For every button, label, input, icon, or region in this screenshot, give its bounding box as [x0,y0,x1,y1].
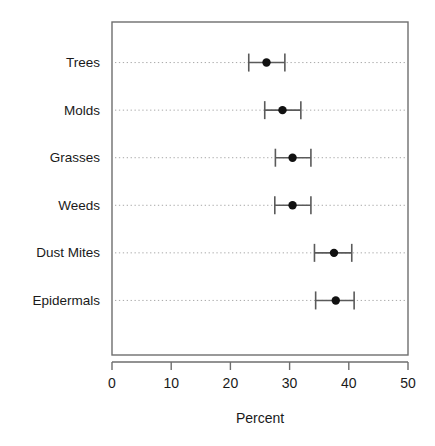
x-tick-label: 20 [223,375,239,391]
data-point-marker [278,106,286,114]
data-point-marker [330,249,338,257]
category-label: Trees [66,55,100,70]
x-tick-label: 40 [341,375,357,391]
category-label: Grasses [50,150,101,165]
data-point-marker [262,58,270,66]
data-point-marker [332,296,340,304]
data-point-marker [288,201,296,209]
x-tick-label: 10 [163,375,179,391]
category-label: Weeds [58,198,100,213]
x-axis-title: Percent [236,410,284,426]
dot-plot-figure: TreesMoldsGrassesWeedsDust MitesEpiderma… [0,0,435,446]
x-tick-label: 30 [282,375,298,391]
data-point-marker [288,154,296,162]
category-label: Epidermals [32,293,100,308]
x-tick-label: 0 [108,375,116,391]
category-label: Dust Mites [36,245,100,260]
category-label: Molds [64,103,100,118]
x-tick-label: 50 [400,375,416,391]
